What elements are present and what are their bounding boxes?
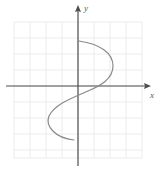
x-axis-label: x: [150, 91, 154, 100]
curve-path: [48, 41, 113, 140]
y-axis-label: y: [84, 4, 88, 13]
coordinate-plot: [0, 0, 157, 169]
x-axis-arrow-icon: [144, 83, 151, 89]
y-axis-arrow-icon: [75, 5, 81, 12]
graph-figure: y x: [0, 0, 157, 169]
